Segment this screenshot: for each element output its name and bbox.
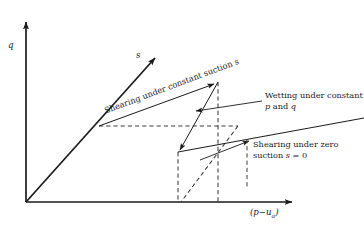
dashed-diagonal-right [181,126,238,202]
wetting-label-leader [196,101,262,111]
wetting-label: Wetting under constant p and q [265,90,363,112]
diagram-canvas [0,0,364,242]
shearing-zero-label-line2: suction s = 0 [253,150,338,161]
q-axis-label: q [8,40,14,51]
p-axis-label-main: (p−u [250,207,272,217]
shearing-zero-label-value: = 0 [290,150,307,160]
shearing-zero-label-line1: Shearing under zero [253,139,338,150]
p-axis-label: (p−ua) [250,207,279,221]
shearing-zero-suction-label: Shearing under zero suction s = 0 [253,139,338,161]
wetting-label-line2: p and q [265,101,363,112]
wetting-label-line1: Wetting under constant [265,90,363,101]
p-axis-label-close: ) [275,207,278,217]
s-axis-label: s [136,50,140,61]
wetting-path [180,82,218,150]
shearing-zero-label-suction: suction [253,150,286,160]
s-axis-line [26,58,155,202]
wetting-label-q: q [291,101,296,111]
stress-path-diagram: q s (p−ua) Shearing under constant sucti… [0,0,364,242]
wetting-label-and: and [270,101,291,111]
